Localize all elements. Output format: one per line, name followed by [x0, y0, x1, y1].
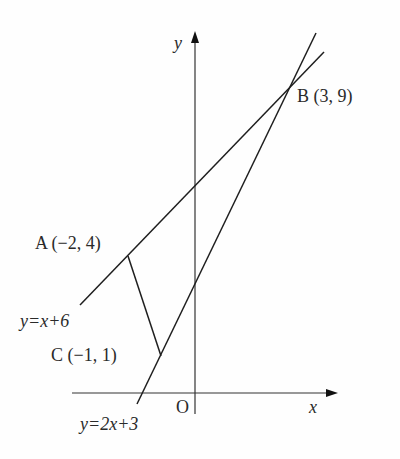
line-label-y-eq-x-plus-6: y=x+6 — [20, 312, 69, 330]
coordinate-plane — [0, 0, 400, 459]
line-y-eq-x-plus-6 — [80, 52, 324, 305]
point-b-label: B (3, 9) — [297, 87, 353, 105]
origin-label: O — [176, 398, 189, 416]
x-axis-arrow-icon — [326, 389, 338, 397]
line-label-y-eq-2x-plus-3: y=2x+3 — [80, 415, 138, 433]
y-axis-label: y — [174, 34, 182, 52]
y-axis-arrow-icon — [191, 31, 199, 43]
point-c-label: C (−1, 1) — [51, 346, 117, 364]
point-a-label: A (−2, 4) — [35, 234, 101, 252]
x-axis-label: x — [309, 398, 317, 416]
segment-ac — [128, 256, 161, 356]
